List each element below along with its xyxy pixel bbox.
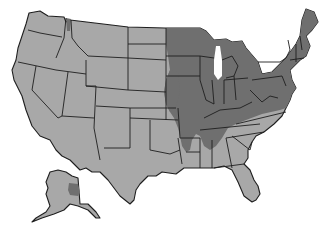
- alaska: [32, 170, 100, 222]
- us-map: [0, 0, 333, 229]
- alaska-high-patch: [68, 183, 80, 196]
- alaska-base: [32, 170, 100, 222]
